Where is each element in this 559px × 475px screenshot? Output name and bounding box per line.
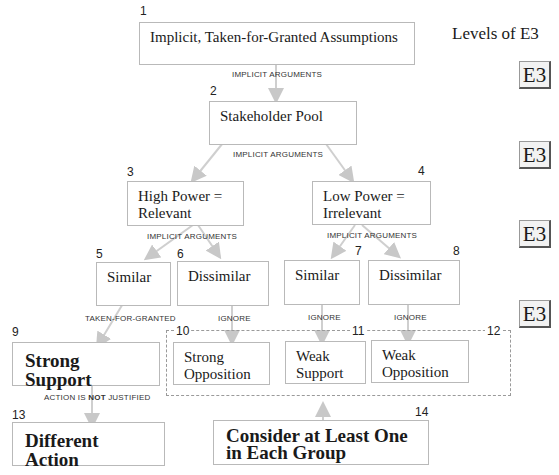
e3-badge-1: E3 (519, 61, 551, 89)
node-10-box: Strong Opposition (173, 342, 270, 385)
node-6-number: 6 (177, 247, 184, 261)
node-14-number: 14 (415, 405, 428, 419)
node-9-box: Strong Support (12, 342, 160, 386)
node-2-number: 2 (210, 84, 217, 98)
edge-label-2: IMPLICIT ARGUMENTS (233, 150, 323, 159)
edge-label-9: ACTION IS NOT JUSTIFIED (44, 393, 150, 402)
node-3-number: 3 (127, 165, 134, 179)
edge-label-8: IGNORE (394, 313, 427, 322)
node-9-number: 9 (12, 325, 19, 339)
e3-badge-4: E3 (519, 300, 551, 328)
node-11-box: Weak Support (285, 341, 366, 384)
edge-label-1: IMPLICIT ARGUMENTS (232, 70, 322, 79)
node-12-number: 12 (485, 324, 502, 338)
edge-label-5: TAKEN-FOR-GRANTED (85, 314, 176, 323)
node-7-box: Similar (284, 260, 360, 305)
node-1-number: 1 (140, 4, 147, 18)
node-7-number: 7 (355, 244, 362, 258)
e3-badge-3: E3 (519, 220, 551, 248)
node-4-number: 4 (418, 164, 425, 178)
node-12-box: Weak Opposition (371, 340, 469, 383)
node-14-box: Consider at Least One in Each Group (213, 420, 429, 465)
node-8-box: Dissimilar (368, 260, 460, 305)
node-11-number: 11 (350, 324, 366, 338)
node-6-box: Dissimilar (177, 261, 269, 306)
node-5-number: 5 (96, 247, 103, 261)
node-13-box: Different Action (12, 422, 165, 466)
edge-label-3: IMPLICIT ARGUMENTS (147, 232, 237, 241)
edge-label-6: IGNORE (218, 314, 251, 323)
levels-title: Levels of E3 (452, 24, 539, 44)
edge-label-7: IGNORE (308, 313, 341, 322)
node-3-box: High Power = Relevant (127, 181, 244, 226)
node-1-box: Implicit, Taken-for-Granted Assumptions (139, 22, 415, 65)
node-8-number: 8 (453, 244, 460, 258)
node-4-box: Low Power = Irrelevant (312, 181, 431, 225)
node-10-number: 10 (174, 324, 191, 338)
e3-badge-2: E3 (519, 141, 551, 169)
node-13-number: 13 (12, 408, 25, 422)
node-2-box: Stakeholder Pool (209, 101, 357, 145)
node-5-box: Similar (96, 262, 171, 306)
edge-label-4: IMPLICIT ARGUMENTS (327, 231, 417, 240)
